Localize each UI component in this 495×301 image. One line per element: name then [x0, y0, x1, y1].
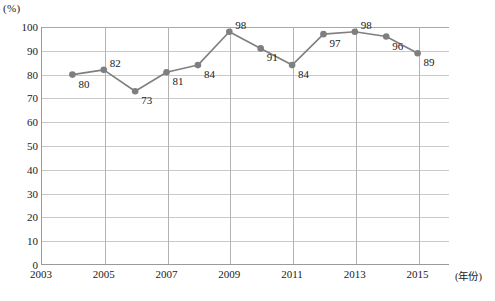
gridline-vertical: [356, 27, 357, 264]
y-axis-tick-label: 10: [4, 235, 38, 247]
line-chart: (%) 0102030405060708090100 2003200520072…: [0, 0, 495, 301]
x-axis-tick-label: 2011: [281, 268, 303, 280]
gridline-horizontal: [42, 241, 449, 242]
gridline-horizontal: [42, 170, 449, 171]
data-point-label: 91: [267, 51, 278, 63]
data-point-label: 80: [78, 78, 89, 90]
data-point-label: 73: [141, 94, 152, 106]
data-point-label: 84: [298, 68, 309, 80]
data-point-label: 89: [424, 56, 435, 68]
data-point-label: 84: [204, 68, 215, 80]
gridline-horizontal: [42, 146, 449, 147]
data-point-label: 81: [173, 75, 184, 87]
gridline-horizontal: [42, 98, 449, 99]
gridline-horizontal: [42, 75, 449, 76]
gridline-horizontal: [42, 122, 449, 123]
y-axis-tick-label: 40: [4, 164, 38, 176]
data-point-label: 97: [329, 37, 340, 49]
y-axis-tick-label: 30: [4, 188, 38, 200]
y-axis-tick-label: 90: [4, 45, 38, 57]
y-axis-tick-labels: 0102030405060708090100: [0, 27, 38, 265]
gridline-horizontal: [42, 194, 449, 195]
x-axis-tick-label: 2009: [218, 268, 240, 280]
gridline-horizontal: [42, 217, 449, 218]
y-axis-tick-label: 50: [4, 140, 38, 152]
x-axis-tick-label: 2005: [93, 268, 115, 280]
y-axis-tick-label: 60: [4, 116, 38, 128]
y-axis-tick-label: 80: [4, 69, 38, 81]
gridline-vertical: [168, 27, 169, 264]
data-point-label: 82: [110, 57, 121, 69]
data-point-label: 98: [361, 19, 372, 31]
data-point-label: 96: [392, 40, 403, 52]
x-axis-tick-label: 2013: [344, 268, 366, 280]
y-axis-tick-label: 70: [4, 92, 38, 104]
x-axis-tick-label: 2003: [30, 268, 52, 280]
x-axis-title: (年份): [455, 268, 482, 283]
data-point-label: 98: [235, 19, 246, 31]
y-axis-tick-label: 20: [4, 211, 38, 223]
gridline-vertical: [293, 27, 294, 264]
gridline-vertical: [230, 27, 231, 264]
gridline-vertical: [419, 27, 420, 264]
x-axis-tick-label: 2007: [156, 268, 178, 280]
x-axis-tick-label: 2015: [407, 268, 429, 280]
y-axis-unit-label: (%): [3, 2, 20, 14]
plot-area: [41, 27, 449, 265]
gridline-horizontal: [42, 51, 449, 52]
y-axis-tick-label: 100: [4, 21, 38, 33]
gridline-vertical: [105, 27, 106, 264]
